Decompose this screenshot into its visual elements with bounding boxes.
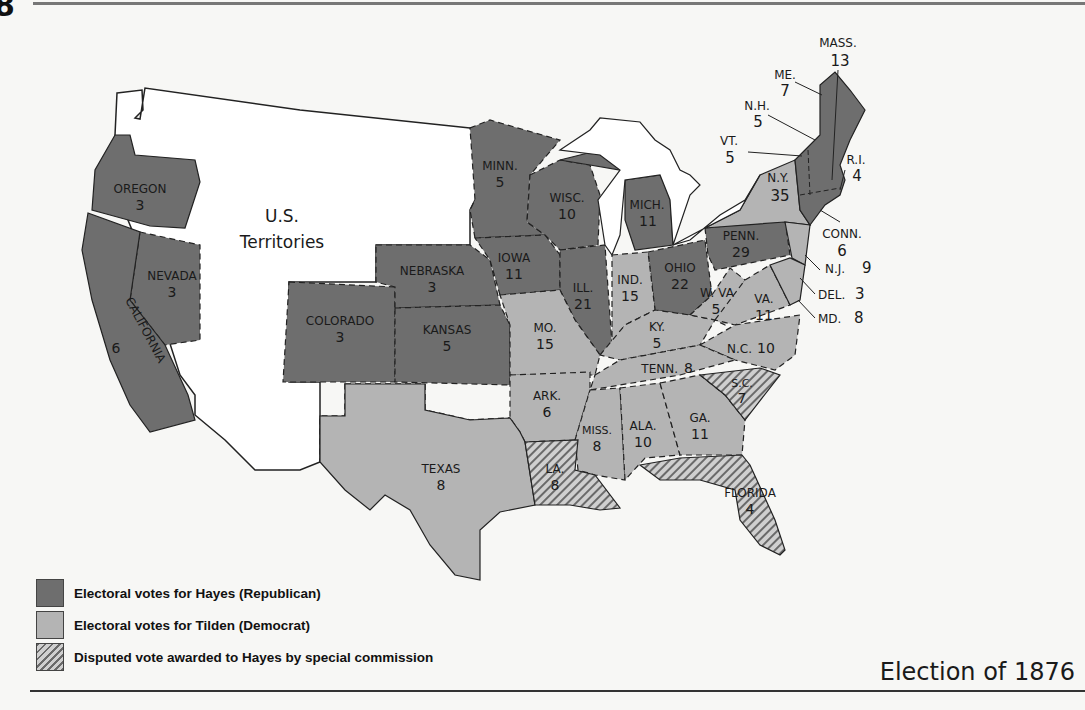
svg-text:8: 8 [593,438,602,454]
svg-text:MISS.: MISS. [582,424,612,437]
svg-text:DEL.: DEL. [818,288,845,302]
svg-text:VT.: VT. [720,134,738,148]
svg-text:KANSAS: KANSAS [423,323,472,337]
svg-text:5: 5 [753,113,763,131]
map-title: Election of 1876 [880,658,1075,686]
svg-text:11: 11 [505,266,523,282]
svg-text:4: 4 [746,501,755,517]
svg-text:7: 7 [738,390,747,406]
svg-text:ALA.: ALA. [630,419,657,433]
svg-text:22: 22 [671,276,689,292]
svg-text:5: 5 [496,174,505,190]
svg-text:GA.: GA. [689,411,710,425]
svg-text:R.I.: R.I. [846,153,865,167]
state-texas [320,384,535,580]
svg-text:5: 5 [712,301,721,317]
state-kansas [395,305,510,385]
svg-text:N.C.: N.C. [727,342,752,356]
svg-text:15: 15 [621,288,639,304]
svg-text:3: 3 [428,279,437,295]
tilden-swatch [36,611,64,639]
territories-label-line1: U.S. [265,206,299,226]
svg-text:5: 5 [443,338,452,354]
legend-item-disputed: Disputed vote awarded to Hayes by specia… [36,641,433,673]
svg-text:IOWA: IOWA [498,251,531,265]
svg-text:13: 13 [830,52,849,70]
bottom-divider [30,690,1085,692]
svg-text:11: 11 [755,307,773,323]
svg-text:N.Y.: N.Y. [767,171,789,185]
svg-text:6: 6 [543,404,552,420]
svg-text:5: 5 [725,149,735,167]
svg-text:5: 5 [653,335,662,351]
svg-text:N.J.: N.J. [825,262,845,276]
svg-text:3: 3 [336,329,345,345]
svg-text:ILL.: ILL. [573,281,594,295]
legend-item-hayes: Electoral votes for Hayes (Republican) [36,577,433,609]
label-oregon-name: OREGON [113,182,166,196]
svg-text:FLORIDA: FLORIDA [724,486,777,500]
svg-text:MO.: MO. [533,321,556,335]
svg-text:6: 6 [112,340,121,356]
svg-text:3: 3 [136,197,145,213]
map-legend: Electoral votes for Hayes (Republican) E… [36,577,433,673]
svg-text:S.C.: S.C. [731,377,753,390]
svg-text:TEXAS: TEXAS [421,462,461,476]
svg-text:COLORADO: COLORADO [306,314,374,328]
svg-text:N.H.: N.H. [744,99,769,113]
hayes-swatch [36,579,64,607]
legend-item-tilden: Electoral votes for Tilden (Democrat) [36,609,433,641]
svg-text:10: 10 [634,434,652,450]
svg-text:ME.: ME. [774,68,796,82]
svg-text:MASS.: MASS. [819,36,857,50]
state-new-england [795,72,865,225]
svg-text:10: 10 [558,206,576,222]
svg-text:10: 10 [757,340,775,356]
svg-text:MD.: MD. [818,312,841,326]
svg-text:8: 8 [437,477,446,493]
svg-text:IND.: IND. [617,273,643,287]
svg-text:KY.: KY. [649,320,665,334]
svg-text:WISC.: WISC. [549,191,584,205]
svg-text:NEBRASKA: NEBRASKA [400,264,465,278]
svg-text:11: 11 [639,213,657,229]
svg-text:8: 8 [551,477,560,493]
svg-text:ARK.: ARK. [533,389,561,403]
svg-text:W. VA: W. VA [700,286,735,300]
svg-text:8: 8 [854,309,864,327]
territories-label-line2: Territories [239,232,325,252]
svg-text:11: 11 [691,426,709,442]
state-florida [640,455,785,555]
svg-text:6: 6 [837,242,847,260]
svg-text:15: 15 [536,336,554,352]
disputed-swatch [36,643,64,671]
svg-text:9: 9 [862,259,872,277]
svg-text:8: 8 [684,360,693,376]
svg-text:35: 35 [770,187,789,205]
svg-text:MICH.: MICH. [630,198,665,212]
svg-text:29: 29 [732,244,750,260]
svg-text:LA.: LA. [546,462,565,476]
svg-text:21: 21 [574,296,592,312]
svg-text:TENN.: TENN. [640,362,678,376]
svg-text:NEVADA: NEVADA [147,269,197,283]
svg-text:3: 3 [168,284,177,300]
svg-text:VA.: VA. [754,292,773,306]
svg-text:7: 7 [780,82,790,100]
svg-text:MINN.: MINN. [482,159,518,173]
svg-text:OHIO: OHIO [664,261,695,275]
svg-text:CONN.: CONN. [822,227,862,241]
svg-text:PENN.: PENN. [723,229,760,243]
svg-text:3: 3 [855,285,865,303]
svg-text:4: 4 [852,167,862,185]
